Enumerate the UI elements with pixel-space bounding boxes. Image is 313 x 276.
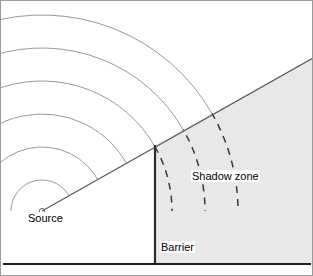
diagram-canvas (0, 0, 313, 276)
wavefront-arc (11, 180, 70, 211)
wavefront-arc-diffracted (9, 114, 139, 211)
diffraction-diagram: Source Shadow zone Barrier (0, 0, 313, 276)
wavefront-arc-diffracted (20, 147, 106, 211)
wavefront-arc-diffracted (31, 180, 73, 211)
barrier-label: Barrier (160, 241, 195, 253)
wavefront-arc (0, 147, 100, 211)
shadow-zone-region (155, 58, 313, 264)
source-label: Source (27, 212, 64, 224)
shadow-zone-label: Shadow zone (191, 170, 260, 182)
wavefront-arc (0, 114, 130, 211)
wavefront-arc-diffracted (0, 81, 172, 211)
wavefront-arc (0, 81, 160, 211)
